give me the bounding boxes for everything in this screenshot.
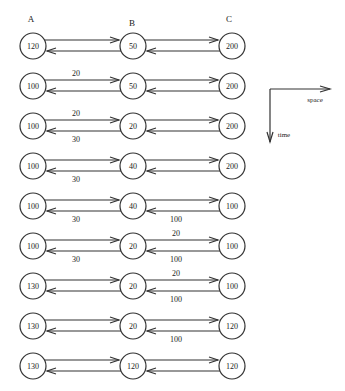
message-label-c-to-b: 100 xyxy=(170,335,182,344)
arrow-b-to-a xyxy=(47,208,121,214)
node-b-value: 20 xyxy=(129,322,137,331)
node-b-value: 40 xyxy=(129,162,137,171)
arrow-b-to-c xyxy=(145,157,218,163)
space-time-diagram: ABC1205020010050200201002020020301004020… xyxy=(0,0,345,391)
node-a-value: 100 xyxy=(27,242,39,251)
arrow-a-to-b xyxy=(45,237,119,243)
node-a-value: 100 xyxy=(27,82,39,91)
message-label-b-to-a: 30 xyxy=(72,255,80,264)
node-c-value: 100 xyxy=(226,242,238,251)
node-a-value: 120 xyxy=(27,42,39,51)
node-b-value: 40 xyxy=(129,202,137,211)
arrow-b-to-a xyxy=(47,128,121,134)
arrow-b-to-c xyxy=(145,317,218,323)
node-b-value: 20 xyxy=(129,282,137,291)
arrow-b-to-c xyxy=(145,117,218,123)
arrow-c-to-b xyxy=(147,248,220,254)
arrow-b-to-a xyxy=(47,88,121,94)
arrow-c-to-b xyxy=(147,368,220,374)
arrow-c-to-b xyxy=(147,48,220,54)
node-a-value: 100 xyxy=(27,122,39,131)
message-label-c-to-b: 100 xyxy=(170,295,182,304)
arrow-a-to-b xyxy=(45,157,119,163)
arrow-b-to-c xyxy=(145,37,218,43)
message-label-a-to-b: 20 xyxy=(72,109,80,118)
arrow-b-to-c xyxy=(145,277,218,283)
arrow-b-to-a xyxy=(47,248,121,254)
message-label-c-to-b: 100 xyxy=(170,215,182,224)
message-label-a-to-b: 20 xyxy=(72,69,80,78)
message-label-b-to-a: 30 xyxy=(72,135,80,144)
node-c-value: 100 xyxy=(226,202,238,211)
arrow-c-to-b xyxy=(147,168,220,174)
arrow-c-to-b xyxy=(147,208,220,214)
node-c-value: 200 xyxy=(226,122,238,131)
arrow-b-to-a xyxy=(47,288,121,294)
arrow-a-to-b xyxy=(45,317,119,323)
diagram-svg: ABC1205020010050200201002020020301004020… xyxy=(0,0,345,391)
arrow-b-to-a xyxy=(47,48,121,54)
node-b-value: 50 xyxy=(129,42,137,51)
node-a-value: 100 xyxy=(27,202,39,211)
node-a-value: 100 xyxy=(27,162,39,171)
arrow-a-to-b xyxy=(45,37,119,43)
node-header-b: B xyxy=(129,18,135,28)
node-a-value: 130 xyxy=(27,322,39,331)
node-header-a: A xyxy=(28,14,35,24)
node-b-value: 120 xyxy=(127,362,139,371)
node-c-value: 200 xyxy=(226,82,238,91)
message-label-c-to-b: 100 xyxy=(170,255,182,264)
node-c-value: 200 xyxy=(226,162,238,171)
arrow-a-to-b xyxy=(45,117,119,123)
arrow-b-to-c xyxy=(145,357,218,363)
arrow-c-to-b xyxy=(147,328,220,334)
node-b-value: 20 xyxy=(129,122,137,131)
node-c-value: 120 xyxy=(226,322,238,331)
node-a-value: 130 xyxy=(27,362,39,371)
arrow-b-to-c xyxy=(145,197,218,203)
node-c-value: 100 xyxy=(226,282,238,291)
message-label-b-to-c: 20 xyxy=(172,269,180,278)
arrow-a-to-b xyxy=(45,357,119,363)
node-header-c: C xyxy=(226,14,232,24)
message-label-b-to-c: 20 xyxy=(172,229,180,238)
arrow-b-to-a xyxy=(47,328,121,334)
arrow-c-to-b xyxy=(147,288,220,294)
node-a-value: 130 xyxy=(27,282,39,291)
arrow-b-to-a xyxy=(47,168,121,174)
arrow-c-to-b xyxy=(147,88,220,94)
message-label-b-to-a: 30 xyxy=(72,215,80,224)
node-b-value: 20 xyxy=(129,242,137,251)
arrow-a-to-b xyxy=(45,277,119,283)
time-axis-label: time xyxy=(278,131,290,139)
arrow-b-to-c xyxy=(145,77,218,83)
arrow-b-to-c xyxy=(145,237,218,243)
arrow-b-to-a xyxy=(47,368,121,374)
message-label-b-to-a: 30 xyxy=(72,175,80,184)
arrow-a-to-b xyxy=(45,77,119,83)
arrow-c-to-b xyxy=(147,128,220,134)
space-axis-label: space xyxy=(307,96,323,104)
arrow-a-to-b xyxy=(45,197,119,203)
node-b-value: 50 xyxy=(129,82,137,91)
node-c-value: 120 xyxy=(226,362,238,371)
node-c-value: 200 xyxy=(226,42,238,51)
